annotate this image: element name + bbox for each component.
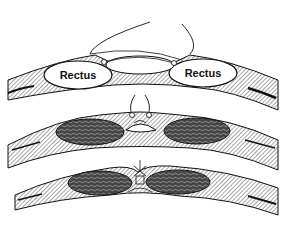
right-rectus-muscle-middle [164,118,230,144]
right-rectus-muscle-bottom [146,170,210,194]
left-rectus-muscle-bottom [68,171,132,195]
panel-middle [8,95,278,170]
panel-bottom [15,160,278,215]
suture-right [182,24,194,54]
caption-strip [20,218,270,226]
left-rectus-muscle-middle [56,119,124,145]
right-rectus-label: Rectus [185,67,222,79]
panel-top: Rectus Rectus [8,22,278,110]
suture-left [90,22,150,54]
surgical-diagram: Rectus Rectus [0,0,284,230]
left-rectus-label: Rectus [60,69,97,81]
